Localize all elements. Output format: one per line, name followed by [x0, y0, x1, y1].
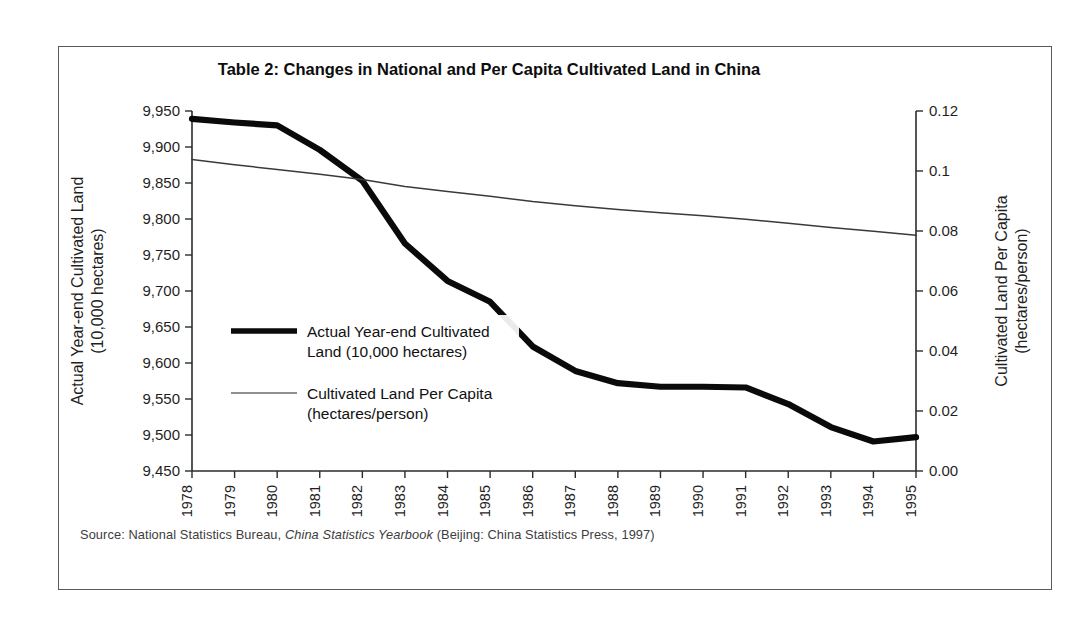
- y-axis-right: 0.000.020.040.060.080.10.12: [916, 102, 958, 479]
- x-axis-tick-label: 1995: [903, 485, 919, 517]
- y-axis-right-tick-label: 0.1: [929, 162, 950, 179]
- y-axis-right-tick-label: 0.02: [929, 402, 958, 419]
- y-axis-left-tick-label: 9,950: [142, 102, 180, 119]
- y-axis-left-tick-label: 9,900: [142, 138, 180, 155]
- chart-legend: Actual Year-end CultivatedLand (10,000 h…: [219, 315, 519, 423]
- chart-canvas: Table 2: Changes in National and Per Cap…: [59, 47, 1053, 517]
- x-axis-tick-label: 1989: [647, 485, 663, 517]
- y-axis-right-title: Cultivated Land Per Capita(hectares/pers…: [993, 195, 1029, 386]
- y-axis-left-tick-label: 9,600: [142, 354, 180, 371]
- chart-title: Table 2: Changes in National and Per Cap…: [218, 60, 761, 78]
- x-axis-tick-label: 1982: [349, 485, 365, 517]
- x-axis-tick-label: 1978: [179, 485, 195, 517]
- x-axis-tick-label: 1984: [435, 485, 451, 517]
- y-axis-left-title: Actual Year-end Cultivated Land(10,000 h…: [69, 177, 105, 406]
- x-axis-tick-label: 1987: [562, 485, 578, 517]
- legend-label: Land (10,000 hectares): [307, 343, 467, 360]
- y-axis-left-tick-label: 9,500: [142, 426, 180, 443]
- source-note: Source: National Statistics Bureau, Chin…: [80, 527, 655, 542]
- y-axis-right-tick-label: 0.06: [929, 282, 958, 299]
- x-axis-tick-label: 1988: [605, 485, 621, 517]
- x-axis-tick-label: 1994: [860, 485, 876, 517]
- legend-label: (hectares/person): [307, 405, 428, 422]
- series-line-per-capita: [192, 160, 916, 236]
- y-axis-left-tick-label: 9,800: [142, 210, 180, 227]
- x-axis-tick-label: 1990: [690, 485, 706, 517]
- x-axis: 1978197919801981198219831984198519861987…: [179, 471, 919, 517]
- y-axis-right-tick-label: 0.08: [929, 222, 958, 239]
- y-axis-right-tick-label: 0.00: [929, 462, 958, 479]
- y-axis-left: 9,4509,5009,5509,6009,6509,7009,7509,800…: [142, 102, 192, 479]
- x-axis-tick-label: 1985: [477, 485, 493, 517]
- figure-frame: Table 2: Changes in National and Per Cap…: [58, 46, 1052, 590]
- legend-label: Actual Year-end Cultivated: [307, 323, 490, 340]
- x-axis-tick-label: 1980: [264, 485, 280, 517]
- source-prefix: Source: National Statistics Bureau,: [80, 527, 285, 542]
- x-axis-tick-label: 1991: [733, 485, 749, 517]
- source-suffix: (Beijing: China Statistics Press, 1997): [433, 527, 655, 542]
- y-axis-left-tick-label: 9,700: [142, 282, 180, 299]
- x-axis-tick-label: 1993: [818, 485, 834, 517]
- y-axis-left-tick-label: 9,450: [142, 462, 180, 479]
- x-axis-tick-label: 1983: [392, 485, 408, 517]
- source-publication: China Statistics Yearbook: [285, 527, 433, 542]
- y-axis-left-tick-label: 9,550: [142, 390, 180, 407]
- x-axis-tick-label: 1981: [307, 485, 323, 517]
- x-axis-tick-label: 1986: [520, 485, 536, 517]
- y-axis-left-tick-label: 9,850: [142, 174, 180, 191]
- y-axis-right-tick-label: 0.12: [929, 102, 958, 119]
- x-axis-tick-label: 1992: [775, 485, 791, 517]
- legend-label: Cultivated Land Per Capita: [307, 385, 493, 402]
- y-axis-right-tick-label: 0.04: [929, 342, 958, 359]
- y-axis-left-tick-label: 9,750: [142, 246, 180, 263]
- x-axis-tick-label: 1979: [222, 485, 238, 517]
- y-axis-left-tick-label: 9,650: [142, 318, 180, 335]
